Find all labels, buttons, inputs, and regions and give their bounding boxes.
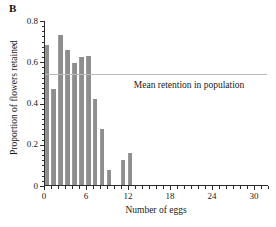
x-axis-tick-label: 6 <box>84 191 89 201</box>
x-axis-tick-minor <box>198 186 199 189</box>
bar <box>121 160 125 185</box>
x-axis-tick-minor <box>149 186 150 189</box>
bar <box>93 99 97 185</box>
x-axis-tick-minor <box>219 186 220 189</box>
x-axis-tick-label: 24 <box>208 191 217 201</box>
x-axis-tick-minor <box>163 186 164 189</box>
x-axis-tick-minor <box>184 186 185 189</box>
bar <box>107 170 111 185</box>
x-axis-tick-label: 12 <box>124 191 133 201</box>
x-axis-tick-major <box>44 186 45 190</box>
x-axis-tick-minor <box>247 186 248 189</box>
bar <box>58 35 62 185</box>
x-axis-tick-labels: 0612182430 <box>44 191 268 203</box>
x-axis-tick-minor <box>100 186 101 189</box>
x-axis-tick-major <box>170 186 171 190</box>
mean-retention-label: Mean retention in population <box>134 80 245 91</box>
x-axis-tick-minor <box>226 186 227 189</box>
x-axis-tick-minor <box>65 186 66 189</box>
y-axis-tick-label: 0.8 <box>27 17 38 26</box>
x-axis-tick-minor <box>79 186 80 189</box>
x-axis-tick-minor <box>233 186 234 189</box>
x-axis-tick-label: 18 <box>166 191 175 201</box>
x-axis-tick-minor <box>72 186 73 189</box>
x-axis-tick-minor <box>93 186 94 189</box>
bar <box>100 129 104 185</box>
plot-area: Mean retention in population <box>45 22 267 185</box>
x-axis-tick-minor <box>51 186 52 189</box>
x-axis-tick-label: 30 <box>250 191 259 201</box>
x-axis-tick-minor <box>191 186 192 189</box>
bar <box>51 89 55 185</box>
y-axis-tick-label: 0.6 <box>27 58 38 67</box>
panel-label: B <box>9 3 17 14</box>
x-axis-tick-minor <box>114 186 115 189</box>
bar <box>79 57 83 185</box>
x-axis-tick-minor <box>261 186 262 189</box>
x-axis-tick-minor <box>121 186 122 189</box>
x-axis-tick-minor <box>135 186 136 189</box>
x-axis-tick-major <box>86 186 87 190</box>
mean-retention-line <box>45 74 267 75</box>
x-axis-tick-major <box>254 186 255 190</box>
x-axis-tick-minor <box>177 186 178 189</box>
x-axis-tick-minor <box>205 186 206 189</box>
x-axis-tick-label: 0 <box>42 191 47 201</box>
y-axis-tick-label: 0.4 <box>27 99 38 108</box>
x-axis-tick-major <box>212 186 213 190</box>
x-axis-tick-minor <box>156 186 157 189</box>
x-axis-title: Number of eggs <box>44 205 268 216</box>
x-axis-tick-minor <box>268 186 269 189</box>
bar <box>65 50 69 185</box>
x-axis-tick-minor <box>58 186 59 189</box>
bar <box>86 56 90 185</box>
x-axis-tick-minor <box>240 186 241 189</box>
x-axis-tick-minor <box>142 186 143 189</box>
y-axis-tick-labels: 00.20.40.60.8 <box>12 21 38 186</box>
bar <box>72 63 76 185</box>
x-axis-tick-minor <box>107 186 108 189</box>
figure-panel-b: B Proportion of flowers retained 00.20.4… <box>0 0 276 227</box>
y-axis-tick-label: 0.2 <box>27 140 38 149</box>
bar <box>128 153 132 185</box>
bar <box>45 45 49 185</box>
x-axis-tick-major <box>128 186 129 190</box>
